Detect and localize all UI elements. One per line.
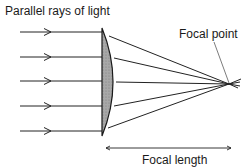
- focal-length-arrow: [106, 146, 231, 150]
- plano-convex-lens: [102, 28, 113, 136]
- converging-lens-diagram: [0, 0, 248, 168]
- incoming-rays: [20, 29, 103, 135]
- refracted-rays: [108, 36, 241, 128]
- focal-point-label: Focal point: [179, 28, 238, 40]
- focal-length-label: Focal length: [142, 154, 207, 166]
- focal-point-leader: [214, 42, 229, 83]
- parallel-rays-label: Parallel rays of light: [5, 5, 110, 17]
